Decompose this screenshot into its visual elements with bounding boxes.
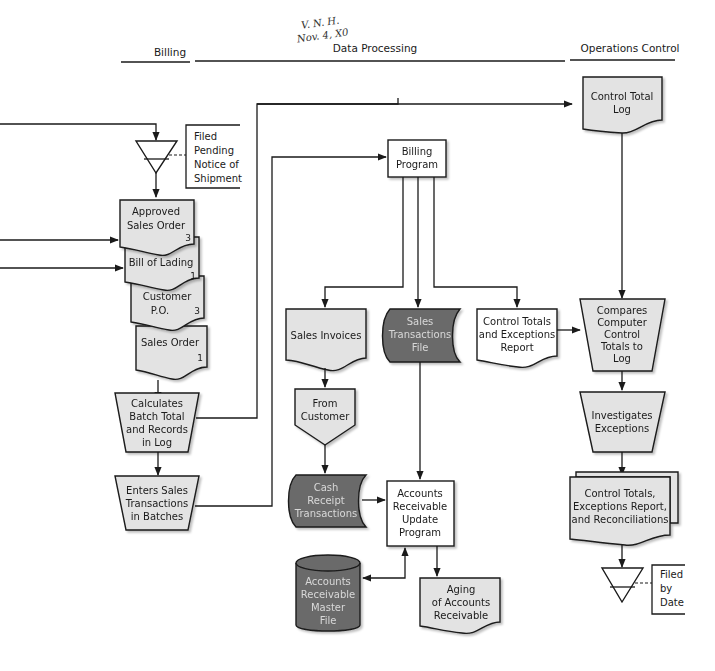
flow-to-control-totals-report xyxy=(434,177,517,307)
compares-control-totals-step: Compares Computer Control Totals to Log xyxy=(580,299,665,371)
svg-text:Notice of: Notice of xyxy=(194,159,239,170)
svg-text:Master: Master xyxy=(311,602,346,613)
control-total-log-document: Control Total Log xyxy=(583,77,662,133)
file-pending-triangle-icon xyxy=(136,141,177,173)
svg-text:Compares: Compares xyxy=(597,305,648,316)
svg-text:Filed: Filed xyxy=(194,131,217,142)
ar-master-file-disk: Accounts Receivable Master File xyxy=(296,555,360,631)
svg-text:Report: Report xyxy=(500,342,533,353)
svg-text:Transactions: Transactions xyxy=(388,329,451,340)
svg-text:Receivable: Receivable xyxy=(393,501,447,512)
svg-text:3: 3 xyxy=(194,306,200,316)
flow-to-sales-invoices xyxy=(325,177,403,307)
svg-text:Sales Order: Sales Order xyxy=(141,337,200,348)
svg-text:Control Total: Control Total xyxy=(591,91,654,102)
ar-update-program-process: Accounts Receivable Update Program xyxy=(387,481,454,546)
column-header-operations-control: Operations Control xyxy=(570,42,680,60)
svg-text:Exceptions: Exceptions xyxy=(595,423,649,434)
svg-text:Totals to: Totals to xyxy=(600,341,643,352)
svg-text:Accounts: Accounts xyxy=(397,488,443,499)
sales-transactions-file-storage: Sales Transactions File xyxy=(383,309,461,362)
svg-text:P.O.: P.O. xyxy=(151,305,169,316)
aging-of-ar-report-document: Aging of Accounts Receivable xyxy=(420,578,500,633)
svg-text:Control: Control xyxy=(604,329,640,340)
svg-text:Batch Total: Batch Total xyxy=(129,411,184,422)
svg-text:by: by xyxy=(660,583,672,594)
svg-text:Customer: Customer xyxy=(143,291,192,302)
svg-text:1: 1 xyxy=(197,353,203,363)
svg-text:Sales Invoices: Sales Invoices xyxy=(291,330,362,341)
svg-text:in Batches: in Batches xyxy=(131,511,183,522)
svg-text:of Accounts: of Accounts xyxy=(432,597,490,608)
svg-text:in Log: in Log xyxy=(142,437,172,448)
column-header-billing: Billing xyxy=(121,46,190,62)
calculates-batch-total-step: Calculates Batch Total and Records in Lo… xyxy=(115,393,199,452)
sales-order-document: Sales Order 1 xyxy=(136,326,207,379)
sales-invoices-document: Sales Invoices xyxy=(286,309,366,371)
svg-text:Log: Log xyxy=(613,104,631,115)
bidirectional-flow-ar-master xyxy=(363,548,405,578)
svg-text:Billing: Billing xyxy=(154,46,186,58)
svg-text:Customer: Customer xyxy=(301,411,350,422)
approved-sales-order-document: Approved Sales Order 3 xyxy=(120,200,194,255)
svg-text:Shipment: Shipment xyxy=(194,173,242,184)
svg-text:Exceptions Report,: Exceptions Report, xyxy=(573,501,667,512)
svg-text:Sales: Sales xyxy=(407,316,434,327)
enters-sales-transactions-step: Enters Sales Transactions in Batches xyxy=(115,476,199,530)
svg-text:Transactions: Transactions xyxy=(125,498,188,509)
svg-text:Enters Sales: Enters Sales xyxy=(126,485,188,496)
svg-text:Receivable: Receivable xyxy=(301,589,355,600)
svg-text:Control Totals,: Control Totals, xyxy=(584,488,655,499)
svg-text:From: From xyxy=(313,398,338,409)
svg-text:Data Processing: Data Processing xyxy=(333,42,417,54)
svg-text:Filed: Filed xyxy=(660,569,683,580)
reconciliations-multi-document: Control Totals, Exceptions Report, and R… xyxy=(570,472,678,545)
svg-text:1: 1 xyxy=(190,271,196,281)
filed-by-date-annotation: Filed by Date xyxy=(652,565,685,614)
investigates-exceptions-step: Investigates Exceptions xyxy=(580,392,665,452)
svg-text:Transactions: Transactions xyxy=(294,508,357,519)
svg-text:Sales Order: Sales Order xyxy=(127,220,186,231)
svg-text:Date: Date xyxy=(660,597,684,608)
svg-text:Receivable: Receivable xyxy=(434,610,488,621)
svg-text:Program: Program xyxy=(399,527,441,538)
from-customer-offpage-connector: From Customer xyxy=(295,389,355,445)
svg-text:Cash: Cash xyxy=(314,482,339,493)
svg-text:Control Totals: Control Totals xyxy=(483,316,551,327)
svg-text:Update: Update xyxy=(402,514,438,525)
column-header-data-processing: Data Processing xyxy=(195,42,565,61)
control-totals-exceptions-report-document: Control Totals and Exceptions Report xyxy=(477,309,557,367)
svg-text:3: 3 xyxy=(185,233,191,243)
svg-text:and Exceptions: and Exceptions xyxy=(479,329,555,340)
svg-text:Approved: Approved xyxy=(132,206,180,217)
svg-text:and Reconciliations: and Reconciliations xyxy=(572,514,669,525)
svg-text:Aging: Aging xyxy=(447,584,476,595)
svg-text:Log: Log xyxy=(613,353,631,364)
svg-text:Receipt: Receipt xyxy=(307,495,344,506)
svg-text:File: File xyxy=(412,342,429,353)
svg-text:File: File xyxy=(320,615,337,626)
svg-text:Billing: Billing xyxy=(402,146,433,157)
file-pending-annotation: Filed Pending Notice of Shipment xyxy=(186,125,242,188)
incoming-flow-line xyxy=(0,124,156,140)
svg-text:Computer: Computer xyxy=(597,317,648,328)
sales-flowchart: Billing Data Processing Operations Contr… xyxy=(0,0,715,671)
cash-receipt-transactions-storage: Cash Receipt Transactions xyxy=(289,475,367,527)
handwritten-initials-annotation: V. N. H. Nov. 4, X0 xyxy=(294,13,350,44)
svg-text:Investigates: Investigates xyxy=(591,410,652,421)
svg-text:and Records: and Records xyxy=(126,424,188,435)
svg-text:Operations Control: Operations Control xyxy=(580,42,679,54)
svg-text:Bill of Lading: Bill of Lading xyxy=(129,257,194,268)
svg-text:Accounts: Accounts xyxy=(305,576,351,587)
svg-text:Calculates: Calculates xyxy=(131,398,183,409)
file-by-date-triangle-icon xyxy=(602,568,643,602)
svg-text:Program: Program xyxy=(396,159,438,170)
billing-program-process: Billing Program xyxy=(388,140,446,177)
svg-text:Pending: Pending xyxy=(194,145,234,156)
